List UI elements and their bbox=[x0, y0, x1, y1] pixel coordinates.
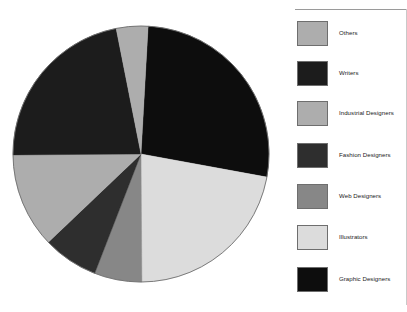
legend-swatch-graphic-designers bbox=[297, 267, 328, 292]
legend-label-industrial-designers: Industrial Designers bbox=[339, 110, 394, 117]
legend: Others Writers Industrial Designers Fash… bbox=[291, 0, 407, 312]
legend-swatch-writers bbox=[297, 61, 328, 86]
legend-item-writers[interactable]: Writers bbox=[291, 58, 407, 88]
legend-swatch-fashion-designers bbox=[297, 143, 328, 168]
legend-item-industrial-designers[interactable]: Industrial Designers bbox=[291, 98, 407, 128]
legend-item-illustrators[interactable]: Illustrators bbox=[291, 222, 407, 252]
legend-swatch-illustrators bbox=[297, 225, 328, 250]
legend-label-others: Others bbox=[339, 30, 358, 37]
legend-swatch-industrial-designers bbox=[297, 101, 328, 126]
pie-plot-area bbox=[0, 0, 290, 312]
legend-label-fashion-designers: Fashion Designers bbox=[339, 152, 391, 159]
legend-item-graphic-designers[interactable]: Graphic Designers bbox=[291, 264, 407, 294]
pie-slice[interactable] bbox=[141, 26, 269, 177]
legend-label-web-designers: Web Designers bbox=[339, 193, 381, 200]
legend-top-rule bbox=[295, 9, 407, 10]
legend-swatch-others bbox=[297, 21, 328, 46]
legend-item-others[interactable]: Others bbox=[291, 18, 407, 48]
legend-label-graphic-designers: Graphic Designers bbox=[339, 276, 390, 283]
legend-item-web-designers[interactable]: Web Designers bbox=[291, 181, 407, 211]
legend-label-illustrators: Illustrators bbox=[339, 234, 368, 241]
pie-svg bbox=[0, 0, 290, 312]
legend-item-fashion-designers[interactable]: Fashion Designers bbox=[291, 140, 407, 170]
legend-swatch-web-designers bbox=[297, 184, 328, 209]
pie-chart-figure: Others Writers Industrial Designers Fash… bbox=[0, 0, 407, 312]
legend-label-writers: Writers bbox=[339, 70, 359, 77]
